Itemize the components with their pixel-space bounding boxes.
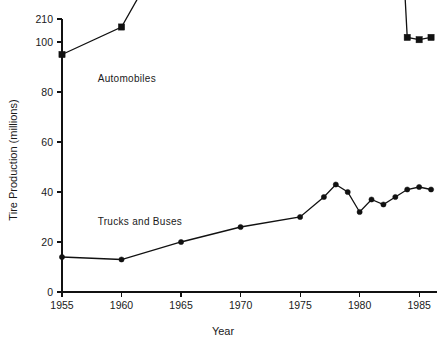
y-tick-label: 60: [41, 136, 53, 148]
chart-canvas: 020406080100120140160180200210 195519601…: [0, 0, 447, 344]
data-point-marker: [381, 202, 386, 207]
x-tick-label: 1980: [348, 299, 372, 311]
data-point-marker: [404, 34, 410, 40]
x-tick-label: 1970: [229, 299, 253, 311]
data-point-marker: [345, 189, 350, 194]
data-point-marker: [357, 209, 362, 214]
data-point-marker: [393, 194, 398, 199]
data-point-marker: [298, 214, 303, 219]
series-annotations: AutomobilesTrucks and Buses: [98, 73, 182, 227]
data-point-marker: [405, 187, 410, 192]
data-point-marker: [428, 34, 434, 40]
data-point-marker: [416, 37, 422, 43]
x-tick-label: 1955: [50, 299, 74, 311]
y-tick-label: 210: [35, 13, 53, 25]
data-point-marker: [59, 51, 65, 57]
series-label-trucks-and-buses: Trucks and Buses: [98, 216, 182, 227]
x-axis: 1955196019651970197519801985: [50, 292, 437, 311]
x-tick-label: 1965: [169, 299, 193, 311]
series-label-automobiles: Automobiles: [98, 73, 156, 84]
data-point-marker: [119, 257, 124, 262]
y-tick-label: 100: [35, 36, 53, 48]
y-axis: 020406080100120140160180200210: [35, 0, 62, 298]
x-tick-label: 1975: [288, 299, 312, 311]
x-tick-label: 1985: [407, 299, 431, 311]
data-point-marker: [369, 197, 374, 202]
x-axis-title: Year: [212, 325, 235, 337]
tire-production-line-chart: 020406080100120140160180200210 195519601…: [0, 0, 447, 344]
x-tick-label: 1960: [110, 299, 134, 311]
data-point-marker: [118, 24, 124, 30]
y-tick-label: 20: [41, 236, 53, 248]
data-point-marker: [333, 182, 338, 187]
data-point-marker: [59, 254, 64, 259]
y-axis-title: Tire Production (millions): [7, 99, 19, 220]
series-line-automobiles: [62, 0, 431, 55]
data-point-marker: [417, 184, 422, 189]
data-point-marker: [238, 224, 243, 229]
y-tick-label: 0: [47, 286, 53, 298]
y-tick-label: 80: [41, 86, 53, 98]
data-point-marker: [428, 187, 433, 192]
y-tick-label: 40: [41, 186, 53, 198]
data-point-marker: [178, 239, 183, 244]
data-point-marker: [321, 194, 326, 199]
